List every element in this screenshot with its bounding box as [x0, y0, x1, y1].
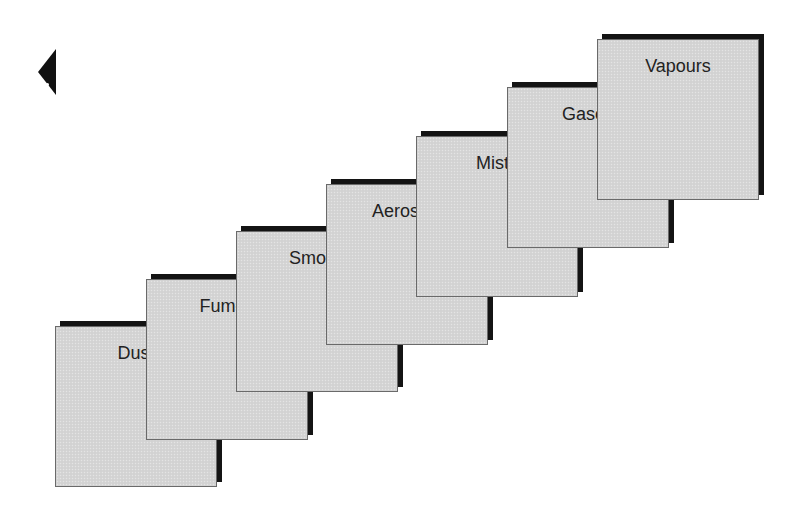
arrow-dot — [46, 83, 49, 86]
card-vapours: Vapours — [597, 39, 759, 200]
card-face: Vapours — [597, 39, 759, 200]
card-label: Vapours — [598, 55, 758, 77]
back-arrow-icon[interactable] — [38, 49, 56, 95]
